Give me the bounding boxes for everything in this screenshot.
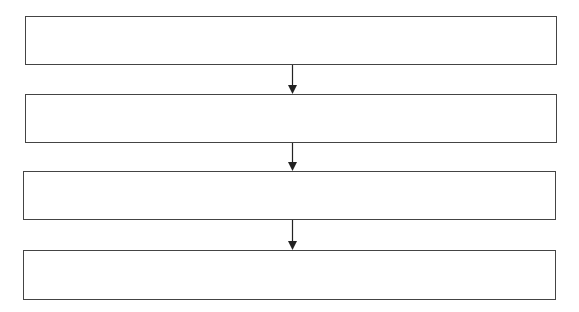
arrow-down-icon (288, 220, 297, 250)
flow-arrows (0, 0, 579, 312)
arrow-down-icon (288, 143, 297, 171)
arrow-down-icon (288, 65, 297, 94)
